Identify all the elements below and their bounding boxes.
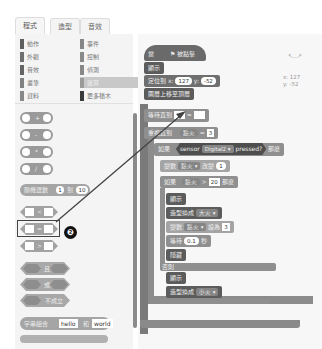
category-control[interactable]: 控制 [80,51,135,62]
if-bottom [160,299,270,304]
category-operators[interactable]: 運算 [80,77,141,88]
and-block[interactable]: 且 [20,262,70,275]
show-block-2[interactable]: 顯示 [166,193,186,205]
repeat-until-block[interactable]: 重複直到 點火 = 3 [144,127,218,139]
costume-dropdown[interactable]: 大火 ▾ [196,209,219,217]
change-var-dropdown[interactable]: 點火 ▾ [178,162,201,170]
go-to-front-block[interactable]: 圖層上移至頂層 [144,88,194,100]
greater-than-block[interactable]: > [20,240,58,252]
category-sensing[interactable]: 偵測 [80,64,135,75]
join-input-b[interactable]: world [92,319,113,328]
if2-op: > [202,178,207,185]
op-label: 不成立 [45,294,63,307]
switch-costume-block-2[interactable]: 造型換成 小火 ▾ [166,286,222,298]
sprite-y: y: -52 [283,81,300,88]
category-motion[interactable]: 動作 [20,38,75,49]
change-var-block[interactable]: 變數 點火 ▾ 改變 1 [160,160,230,172]
tab-costumes[interactable]: 造型 [50,18,80,35]
costume2-label: 造型換成 [170,288,194,295]
show-block[interactable]: 顯示 [144,62,164,74]
change-value[interactable]: 1 [216,162,226,170]
set-var-block[interactable]: 變數 點火 ▾ 設為 3 [166,221,234,233]
pick-random-block[interactable]: 隨機選數 1 到 10 [20,184,90,196]
subtract-block[interactable]: - [20,129,53,141]
join-label: 字串組合 [24,317,48,330]
sensor-label: sensor [180,145,200,152]
random-to[interactable]: 10 [76,186,88,194]
set-var: 點火 [187,224,199,230]
op-label: < [37,206,42,218]
category-sound[interactable]: 音效 [20,64,75,75]
wait-until-block[interactable]: 等待直到 = [144,109,209,122]
set-var-dropdown[interactable]: 點火 ▾ [184,223,207,231]
step-badge: ❷ [64,226,77,239]
category-pen[interactable]: 畫筆 [20,77,75,88]
goto-y-input[interactable]: -52 [201,77,216,85]
op-label: 且 [44,262,50,275]
hat-suffix: 被點擊 [177,50,195,57]
if-label: 如果 [158,145,170,152]
join-input-a[interactable]: hello [59,319,78,328]
show-block-3[interactable]: 顯示 [166,272,186,284]
sprite-coordinates: x: 127 y: -52 [283,74,300,88]
multiply-block[interactable]: * [20,146,53,158]
tab-sounds[interactable]: 音效 [80,18,110,35]
op-label: > [37,240,42,252]
category-label: 運算 [87,79,99,86]
sprite-direction-icon: ↖..↗ [288,52,302,59]
category-looks[interactable]: 外觀 [20,51,75,62]
change-var: 點火 [181,163,193,169]
highlight-box [17,220,60,237]
costume-label: 造型換成 [170,209,194,216]
goto-xy-block[interactable]: 定位到 x: 127 y: -52 [144,75,220,87]
set-value[interactable]: 3 [222,223,230,231]
wait-block[interactable]: 等待 0.1 秒 [166,235,211,247]
random-from[interactable]: 1 [56,186,64,194]
if-sensor-block[interactable]: 如果 sensor Digital2 ▾ pressed? 那麼 [154,143,284,156]
if2-value[interactable]: 20 [209,178,220,186]
partial-block[interactable] [20,335,108,343]
join-block[interactable]: 字串組合 hello 和 world [20,317,110,330]
repeat-value[interactable]: 3 [207,129,215,137]
sprite-x: x: 127 [283,74,300,81]
repeat-op: = [200,129,205,136]
category-events[interactable]: 事件 [80,38,135,49]
then-label: 那麼 [268,145,280,152]
less-than-block[interactable]: < [20,206,58,218]
palette-scrollbar[interactable] [133,113,137,328]
category-label: 偵測 [87,66,99,73]
costume-value: 大火 [199,210,211,216]
category-data[interactable]: 資料 [20,90,75,101]
when-flag-clicked-block[interactable]: 當 ⚑ 被點擊 [144,45,206,61]
category-label: 更多積木 [87,92,111,99]
then2-label: 那麼 [222,178,234,185]
goto-x-input[interactable]: 127 [175,77,192,85]
op-label: + [35,112,40,124]
if2-label: 如果 [164,178,176,185]
costume2-dropdown[interactable]: 小火 ▾ [196,288,219,296]
hide-block[interactable]: 隱藏 [166,249,186,261]
if2-var[interactable]: 點火 [182,178,200,186]
wait-unit: 秒 [201,237,207,244]
sensor-port: Digital2 [205,146,226,152]
category-more-blocks[interactable]: 更多積木 [80,90,135,101]
add-block[interactable]: + [20,112,53,124]
not-block[interactable]: 不成立 [20,294,70,307]
op-label: * [35,146,38,158]
repeat-label: 重複直到 [148,129,172,136]
wait-value[interactable]: 0.1 [184,237,199,245]
or-block[interactable]: 或 [20,278,70,291]
if-greater-block[interactable]: 如果 點火 > 20 那麼 [160,176,238,188]
op-label: 或 [44,278,50,291]
sensor-pressed-block[interactable]: sensor Digital2 ▾ pressed? [176,143,266,155]
script-frame-bottom [140,320,300,328]
sensor-pressed: pressed? [236,145,263,152]
sensor-port-dropdown[interactable]: Digital2 ▾ [202,145,234,153]
palette-divider [15,103,133,104]
switch-costume-block[interactable]: 造型換成 大火 ▾ [166,207,222,219]
change-by-label: 改變 [202,162,214,169]
repeat-var[interactable]: 點火 [180,129,198,137]
goto-y-label: y: [194,77,199,84]
divide-block[interactable]: / [20,163,53,175]
random-label: 隨機選數 [24,184,48,196]
